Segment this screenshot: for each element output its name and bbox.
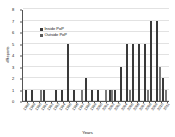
y-axis-tick-label: 6: [12, 31, 16, 35]
bar-inside-pop: [73, 90, 75, 102]
legend-swatch-icon-outside: [40, 34, 43, 37]
y-axis-tick-label: 7: [12, 20, 16, 24]
y-axis-tick-label: 8: [12, 8, 16, 12]
legend-item-outside-pop: Outside PoP: [40, 33, 67, 37]
y-axis-tick-mark: [20, 56, 22, 57]
y-axis-tick-mark: [20, 33, 22, 34]
bar-outside-pop: [165, 90, 167, 102]
bar-inside-pop: [43, 90, 45, 102]
bar-inside-pop: [91, 90, 93, 102]
y-axis-tick-label: 3: [12, 66, 16, 70]
y-axis-tick-mark: [20, 67, 22, 68]
chart-legend: Inside PoP Outside PoP: [40, 27, 67, 37]
bar-inside-pop: [61, 90, 63, 102]
legend-item-inside-pop: Inside PoP: [40, 27, 67, 31]
bar-inside-pop: [25, 90, 27, 102]
bar-outside-pop: [129, 90, 131, 102]
bar-inside-pop: [120, 67, 122, 102]
y-axis-title: #Reports: [5, 35, 10, 75]
bar-group: [161, 10, 167, 101]
x-axis-labels: 1988198919901991199219931994199519961997…: [22, 103, 169, 125]
bar-inside-pop: [132, 44, 134, 102]
y-axis-tick-label: 4: [12, 54, 16, 58]
bar-inside-pop: [114, 90, 116, 102]
x-axis-tick-label: 2011: [164, 103, 171, 111]
x-axis-title: Years: [0, 130, 175, 135]
plot-area: [22, 10, 169, 102]
bar-chart: #Reports 012345678 198819891990199119921…: [0, 0, 175, 137]
bar-inside-pop: [67, 44, 69, 102]
y-axis-tick-label: 2: [12, 77, 16, 81]
bar-outside-pop: [105, 90, 107, 102]
bar-series-container: [23, 10, 169, 101]
legend-swatch-icon-inside: [40, 28, 43, 31]
y-axis-tick-mark: [20, 10, 22, 11]
bar-outside-pop: [159, 67, 161, 102]
y-axis-tick-mark: [20, 44, 22, 45]
legend-label-outside: Outside PoP: [45, 33, 67, 37]
bar-inside-pop: [55, 90, 57, 102]
y-axis-tick-label: 5: [12, 43, 16, 47]
bar-outside-pop: [40, 90, 42, 102]
y-axis-tick-mark: [20, 90, 22, 91]
y-axis-tick-label: 0: [12, 100, 16, 104]
bar-inside-pop: [138, 44, 140, 102]
bar-outside-pop: [147, 90, 149, 102]
bar-outside-pop: [111, 90, 113, 102]
y-axis-tick-mark: [20, 21, 22, 22]
bar-inside-pop: [85, 78, 87, 101]
legend-label-inside: Inside PoP: [45, 27, 64, 31]
gridline: [23, 8, 169, 9]
y-axis-tick-mark: [20, 79, 22, 80]
y-axis-tick-label: 1: [12, 89, 16, 93]
bar-inside-pop: [150, 21, 152, 102]
bar-inside-pop: [97, 90, 99, 102]
bar-outside-pop: [81, 90, 83, 102]
bar-inside-pop: [31, 90, 33, 102]
